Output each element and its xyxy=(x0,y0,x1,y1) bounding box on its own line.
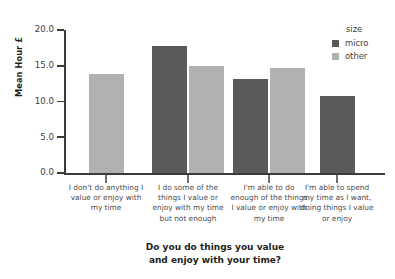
y-axis-tick xyxy=(57,172,64,174)
category-label-line: things I value or xyxy=(147,193,229,203)
y-axis-spine xyxy=(64,30,66,173)
category-label-line: or enjoy xyxy=(296,214,378,224)
y-axis-tick-label: 20.0 xyxy=(6,25,54,34)
y-axis-tick xyxy=(57,65,64,67)
bar-micro-group-2[interactable] xyxy=(152,46,187,173)
y-axis-tick xyxy=(57,29,64,31)
y-axis-tick-label: 10.0 xyxy=(6,97,54,106)
x-axis-title-line-2: and enjoy with your time? xyxy=(100,254,330,267)
legend: size micro other xyxy=(332,24,368,63)
legend-entry-other[interactable]: other xyxy=(332,50,368,62)
category-label-line: I don't do anything I xyxy=(65,183,147,193)
x-axis-tick xyxy=(336,175,338,183)
legend-swatch-other xyxy=(332,53,339,60)
category-label-line: my time xyxy=(65,203,147,213)
x-axis-category-label-1: I don't do anything Ivalue or enjoy with… xyxy=(65,183,147,214)
x-axis-tick xyxy=(187,175,189,183)
legend-swatch-micro xyxy=(332,40,339,47)
x-axis-tick xyxy=(268,175,270,183)
x-axis-category-label-4: I'm able to spendmy time as I want,doing… xyxy=(296,183,378,224)
bar-other-group-2[interactable] xyxy=(189,66,224,173)
bar-chart: Mean Hour £ 20.0 15.0 10.0 5.0 0.0 I don… xyxy=(0,0,395,279)
category-label-line: but not enough xyxy=(147,214,229,224)
category-label-line: value or enjoy with xyxy=(65,193,147,203)
x-axis-title-line-1: Do you do things you value xyxy=(100,241,330,254)
bar-micro-group-4[interactable] xyxy=(320,96,355,173)
y-axis-tick xyxy=(57,101,64,103)
category-label-line: I'm able to spend xyxy=(296,183,378,193)
x-axis-title: Do you do things you value and enjoy wit… xyxy=(100,241,330,266)
category-label-line: I do some of the xyxy=(147,183,229,193)
y-axis-tick-label: 15.0 xyxy=(6,61,54,70)
legend-title: size xyxy=(346,24,368,34)
y-axis-tick-label: 5.0 xyxy=(6,133,54,142)
bar-other-group-1[interactable] xyxy=(89,74,124,173)
bar-other-group-3[interactable] xyxy=(270,68,305,173)
legend-label-micro: micro xyxy=(345,38,368,48)
category-label-line: enjoy with my time xyxy=(147,203,229,213)
category-label-line: doing things I value xyxy=(296,203,378,213)
x-axis-tick xyxy=(105,175,107,183)
x-axis-category-label-2: I do some of thethings I value orenjoy w… xyxy=(147,183,229,224)
bar-micro-group-3[interactable] xyxy=(233,79,268,173)
y-axis-tick-label: 0.0 xyxy=(6,168,54,177)
legend-entry-micro[interactable]: micro xyxy=(332,37,368,49)
category-label-line: my time as I want, xyxy=(296,193,378,203)
y-axis-tick xyxy=(57,136,64,138)
legend-label-other: other xyxy=(345,51,367,61)
